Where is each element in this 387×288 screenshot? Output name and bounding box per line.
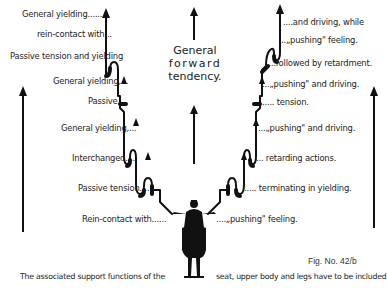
right-label: ..... terminating in yielding. [244,184,352,192]
center-top-arrow-icon [190,7,198,40]
left-label: Interchanged..... [72,154,138,162]
left-label: Passive.... [88,97,127,105]
left-label: rein-contact with... [37,30,112,38]
center-title-line-2: forward [150,57,240,70]
right-label: ... retarding actions. [256,154,336,162]
figure-number: Fig. No. 42/b [308,256,357,266]
left-label: General yielding,... [61,124,136,132]
left-label: Passive tension and yielding [10,52,123,60]
left-label: Rein-contact with...... [82,215,166,223]
footer-caption-left: The associated support functions of the [20,272,165,281]
footer-caption-right: seat, upper body and legs have to be inc… [216,272,386,281]
rein-aids-diagram: General forward tendency. General yieldi… [0,0,387,288]
left-label: General yielding,... [53,77,128,85]
center-title: General forward tendency. [150,44,240,83]
right-label: ...„pushing" and driving. [262,80,359,88]
center-title-line-1: General [150,44,240,57]
right-label: ....and driving, while [283,18,364,26]
right-label: ...„pushing" and driving. [258,124,355,132]
right-label: ..... tension. [262,98,309,106]
left-label: General yielding...... [22,10,102,18]
right-label: ..„pushing" feeling. [281,36,358,44]
left-label: Passive tension..... [78,184,152,192]
right-label: ....followed by retardment. [266,59,372,67]
right-side-arrow-icon [370,86,378,228]
center-lower-arrow-icon [190,105,198,164]
center-title-line-3: tendency. [150,70,240,83]
right-label: ....„pushing" feeling. [216,215,298,223]
left-side-arrow-icon [19,86,27,232]
